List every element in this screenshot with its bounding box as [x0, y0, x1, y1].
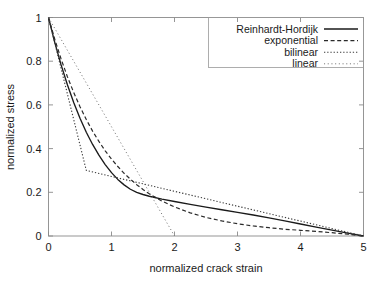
y-tick-label: 0.2: [26, 186, 41, 198]
legend-label-linear: linear: [292, 57, 318, 69]
chart-legend: Reinhardt-Hordijkexponentialbilinearline…: [209, 18, 364, 70]
legend-label-bilinear: bilinear: [284, 46, 318, 58]
x-axis-tick-labels: 012345: [45, 241, 366, 253]
x-tick-label: 3: [234, 241, 240, 253]
y-axis-title: normalized stress: [4, 83, 16, 170]
x-tick-label: 2: [171, 241, 177, 253]
legend-label-reinhardt-hordijk: Reinhardt-Hordijk: [236, 23, 318, 35]
series-line-linear: [49, 18, 175, 237]
y-tick-label: 0.8: [26, 55, 41, 67]
x-tick-label: 5: [360, 241, 366, 253]
y-tick-label: 0.4: [26, 143, 41, 155]
y-tick-label: 0.6: [26, 99, 41, 111]
y-tick-label: 0: [35, 230, 41, 242]
chart-figure: 012345 00.20.40.60.81 normalized crack s…: [0, 0, 384, 281]
x-tick-label: 4: [297, 241, 303, 253]
y-axis-tick-labels: 00.20.40.60.81: [26, 12, 41, 243]
legend-label-exponential: exponential: [264, 34, 318, 46]
x-tick-label: 1: [108, 241, 114, 253]
x-tick-label: 0: [45, 241, 51, 253]
x-axis-title: normalized crack strain: [149, 262, 262, 274]
line-chart: 012345 00.20.40.60.81 normalized crack s…: [0, 0, 384, 281]
y-tick-label: 1: [35, 12, 41, 24]
